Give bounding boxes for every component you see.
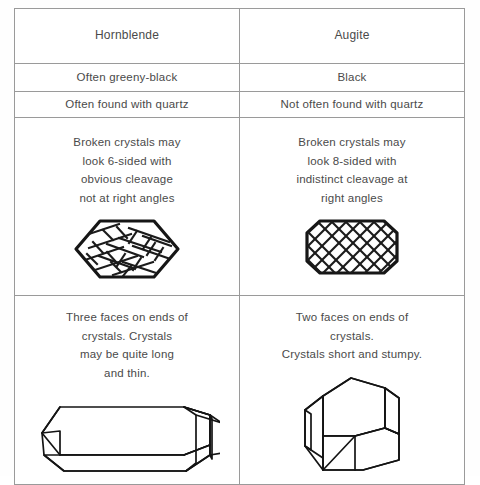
column-header-hornblende: Hornblende <box>15 9 240 64</box>
table-row-cleavage: Broken crystals may look 6-sided with ob… <box>15 118 465 296</box>
cell-augite-cleavage-text: Broken crystals may look 8-sided with in… <box>290 133 413 208</box>
column-header-augite: Augite <box>240 9 465 64</box>
table-row-colour: Often greeny-black Black <box>15 64 465 92</box>
cell-hornblende-habit: Three faces on ends of crystals. Crystal… <box>15 296 240 485</box>
table-row-crystal-habit: Three faces on ends of crystals. Crystal… <box>15 296 465 485</box>
column-header-augite-label: Augite <box>240 26 464 45</box>
cell-hornblende-habit-text: Three faces on ends of crystals. Crystal… <box>60 308 194 383</box>
cell-augite-habit-text: Two faces on ends of crystals. Crystals … <box>276 308 428 364</box>
cell-hornblende-association: Often found with quartz <box>15 92 240 118</box>
augite-cross-section-icon <box>304 218 400 276</box>
augite-prism-icon <box>289 374 415 484</box>
cell-hornblende-colour-text: Often greeny-black <box>15 68 239 87</box>
cell-augite-association: Not often found with quartz <box>240 92 465 118</box>
cell-augite-colour: Black <box>240 64 465 92</box>
hornblende-cross-section-icon <box>73 218 181 280</box>
augite-cross-section-figure <box>304 218 400 276</box>
cell-hornblende-cleavage: Broken crystals may look 6-sided with ob… <box>15 118 240 296</box>
augite-prism-figure <box>289 374 415 484</box>
cell-augite-association-text: Not often found with quartz <box>240 95 464 114</box>
mineral-comparison-table: Hornblende Augite Often greeny-black Bla… <box>14 8 465 485</box>
cell-hornblende-cleavage-text: Broken crystals may look 6-sided with ob… <box>67 133 186 208</box>
hornblende-cross-section-figure <box>73 218 181 280</box>
cell-hornblende-colour: Often greeny-black <box>15 64 240 92</box>
column-header-hornblende-label: Hornblende <box>15 26 239 45</box>
hornblende-prism-figure <box>34 393 220 483</box>
cell-augite-cleavage: Broken crystals may look 8-sided with in… <box>240 118 465 296</box>
table-header-row: Hornblende Augite <box>15 9 465 64</box>
cell-augite-colour-text: Black <box>240 68 464 87</box>
hornblende-prism-icon <box>34 393 220 483</box>
table-row-association: Often found with quartz Not often found … <box>15 92 465 118</box>
cell-hornblende-association-text: Often found with quartz <box>15 95 239 114</box>
cell-augite-habit: Two faces on ends of crystals. Crystals … <box>240 296 465 485</box>
